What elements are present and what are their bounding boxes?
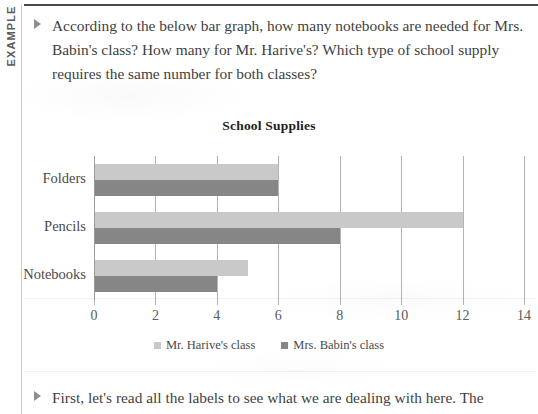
x-axis-tick	[340, 300, 341, 305]
scan-artifact-rule	[24, 371, 536, 372]
footer-paragraph: First, let's read all the labels to see …	[52, 386, 530, 410]
bar-notebooks-series-2	[95, 276, 217, 292]
category-label-folders: Folders	[0, 170, 86, 187]
gridline	[340, 156, 341, 300]
x-axis-tick-label: 10	[381, 308, 421, 324]
question-text: According to the below bar graph, how ma…	[52, 17, 523, 82]
x-axis-tick-label: 6	[258, 308, 298, 324]
gridline	[524, 156, 525, 300]
example-label: EXAMPLE	[5, 0, 17, 73]
bar-notebooks-series-1	[95, 260, 248, 276]
x-axis-tick-label: 12	[443, 308, 483, 324]
legend-label: Mrs. Babin's class	[293, 338, 384, 353]
question-paragraph: According to the below bar graph, how ma…	[52, 14, 524, 86]
x-axis-tick	[278, 300, 279, 305]
x-axis-tick-label: 4	[197, 308, 237, 324]
x-axis-tick-label: 2	[135, 308, 175, 324]
legend-item-2: Mrs. Babin's class	[281, 338, 384, 353]
legend-swatch-icon	[281, 342, 288, 349]
top-rule	[24, 4, 538, 6]
x-axis-tick	[94, 300, 95, 305]
category-label-notebooks: Notebooks	[0, 266, 86, 283]
scan-artifact-rule	[24, 298, 536, 299]
x-axis-tick-label: 8	[320, 308, 360, 324]
gridline	[463, 156, 464, 300]
x-axis-tick-label: 0	[74, 308, 114, 324]
x-axis-tick	[155, 300, 156, 305]
x-axis-tick	[524, 300, 525, 305]
legend-item-1: Mr. Harive's class	[154, 338, 255, 353]
gridline	[401, 156, 402, 300]
triangle-bullet-icon	[34, 391, 41, 401]
x-axis-tick	[401, 300, 402, 305]
bar-pencils-series-1	[95, 212, 463, 228]
x-axis-tick	[463, 300, 464, 305]
x-axis-tick	[217, 300, 218, 305]
legend-swatch-icon	[154, 342, 161, 349]
plot-area: 02468101214FoldersPencilsNotebooks	[94, 156, 524, 300]
legend-label: Mr. Harive's class	[166, 338, 255, 353]
triangle-bullet-icon	[34, 19, 41, 29]
bar-folders-series-1	[95, 164, 278, 180]
chart-legend: Mr. Harive's classMrs. Babin's class	[0, 338, 538, 353]
bar-pencils-series-2	[95, 228, 340, 244]
bar-folders-series-2	[95, 180, 278, 196]
chart-title: School Supplies	[0, 118, 538, 134]
x-axis-tick-label: 14	[504, 308, 538, 324]
bar-chart: School Supplies 02468101214FoldersPencil…	[0, 110, 538, 360]
category-label-pencils: Pencils	[0, 218, 86, 235]
footer-text: First, let's read all the labels to see …	[52, 389, 484, 406]
